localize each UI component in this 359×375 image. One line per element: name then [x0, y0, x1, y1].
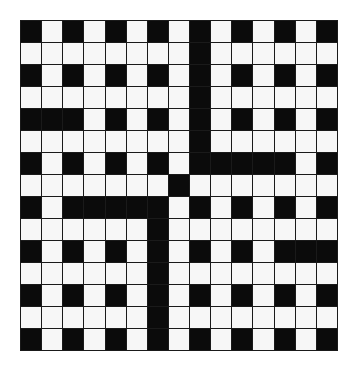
white-square[interactable] [253, 219, 273, 240]
white-square[interactable] [253, 263, 273, 284]
white-square[interactable] [169, 329, 189, 350]
white-square[interactable] [211, 21, 231, 42]
white-square[interactable] [253, 307, 273, 328]
white-square[interactable] [296, 307, 316, 328]
white-square[interactable] [84, 87, 104, 108]
white-square[interactable] [169, 219, 189, 240]
white-square[interactable] [21, 263, 41, 284]
white-square[interactable] [21, 131, 41, 152]
white-square[interactable] [296, 109, 316, 130]
white-square[interactable] [21, 175, 41, 196]
white-square[interactable] [190, 263, 210, 284]
white-square[interactable] [84, 219, 104, 240]
white-square[interactable] [127, 219, 147, 240]
white-square[interactable] [211, 329, 231, 350]
white-square[interactable] [253, 21, 273, 42]
white-square[interactable] [253, 131, 273, 152]
white-square[interactable] [42, 329, 62, 350]
white-square[interactable] [127, 87, 147, 108]
white-square[interactable] [275, 307, 295, 328]
white-square[interactable] [232, 175, 252, 196]
white-square[interactable] [148, 131, 168, 152]
white-square[interactable] [42, 65, 62, 86]
white-square[interactable] [84, 241, 104, 262]
white-square[interactable] [211, 219, 231, 240]
white-square[interactable] [127, 175, 147, 196]
white-square[interactable] [21, 219, 41, 240]
white-square[interactable] [296, 219, 316, 240]
white-square[interactable] [169, 131, 189, 152]
white-square[interactable] [169, 21, 189, 42]
white-square[interactable] [317, 175, 337, 196]
white-square[interactable] [21, 307, 41, 328]
white-square[interactable] [253, 175, 273, 196]
white-square[interactable] [42, 21, 62, 42]
white-square[interactable] [275, 131, 295, 152]
white-square[interactable] [211, 131, 231, 152]
white-square[interactable] [42, 153, 62, 174]
white-square[interactable] [84, 21, 104, 42]
white-square[interactable] [42, 87, 62, 108]
white-square[interactable] [106, 131, 126, 152]
white-square[interactable] [42, 197, 62, 218]
white-square[interactable] [42, 263, 62, 284]
white-square[interactable] [296, 153, 316, 174]
white-square[interactable] [127, 329, 147, 350]
white-square[interactable] [169, 197, 189, 218]
white-square[interactable] [169, 43, 189, 64]
white-square[interactable] [63, 175, 83, 196]
white-square[interactable] [317, 87, 337, 108]
white-square[interactable] [169, 241, 189, 262]
white-square[interactable] [190, 175, 210, 196]
white-square[interactable] [42, 131, 62, 152]
white-square[interactable] [232, 43, 252, 64]
white-square[interactable] [42, 241, 62, 262]
white-square[interactable] [169, 87, 189, 108]
white-square[interactable] [127, 131, 147, 152]
white-square[interactable] [84, 131, 104, 152]
white-square[interactable] [169, 153, 189, 174]
white-square[interactable] [21, 87, 41, 108]
white-square[interactable] [296, 43, 316, 64]
white-square[interactable] [84, 109, 104, 130]
white-square[interactable] [106, 175, 126, 196]
white-square[interactable] [296, 87, 316, 108]
white-square[interactable] [42, 285, 62, 306]
white-square[interactable] [190, 219, 210, 240]
white-square[interactable] [211, 263, 231, 284]
white-square[interactable] [232, 307, 252, 328]
white-square[interactable] [296, 329, 316, 350]
white-square[interactable] [317, 263, 337, 284]
white-square[interactable] [84, 307, 104, 328]
white-square[interactable] [169, 307, 189, 328]
white-square[interactable] [127, 307, 147, 328]
white-square[interactable] [253, 241, 273, 262]
white-square[interactable] [148, 175, 168, 196]
white-square[interactable] [232, 131, 252, 152]
white-square[interactable] [211, 197, 231, 218]
white-square[interactable] [275, 43, 295, 64]
white-square[interactable] [317, 43, 337, 64]
white-square[interactable] [127, 241, 147, 262]
white-square[interactable] [106, 263, 126, 284]
white-square[interactable] [296, 263, 316, 284]
white-square[interactable] [317, 131, 337, 152]
white-square[interactable] [106, 87, 126, 108]
white-square[interactable] [190, 307, 210, 328]
white-square[interactable] [84, 285, 104, 306]
white-square[interactable] [84, 329, 104, 350]
white-square[interactable] [296, 131, 316, 152]
white-square[interactable] [253, 197, 273, 218]
white-square[interactable] [63, 87, 83, 108]
white-square[interactable] [63, 43, 83, 64]
white-square[interactable] [106, 307, 126, 328]
white-square[interactable] [127, 21, 147, 42]
white-square[interactable] [275, 263, 295, 284]
white-square[interactable] [63, 263, 83, 284]
white-square[interactable] [211, 241, 231, 262]
white-square[interactable] [148, 43, 168, 64]
white-square[interactable] [211, 43, 231, 64]
white-square[interactable] [127, 65, 147, 86]
white-square[interactable] [253, 43, 273, 64]
white-square[interactable] [148, 87, 168, 108]
